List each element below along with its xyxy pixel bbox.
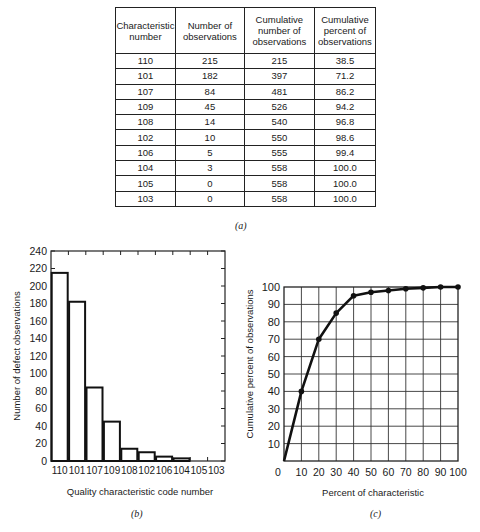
data-point-marker <box>316 336 322 342</box>
x-tick-label: 104 <box>173 465 190 476</box>
table-cell: 102 <box>116 130 176 145</box>
y-tick-label: 90 <box>268 298 280 310</box>
x-axis-title: Percent of characteristic <box>322 487 424 498</box>
y-tick-label: 20 <box>35 437 47 449</box>
x-tick-label: 30 <box>330 466 342 478</box>
bar-chart-caption: (b) <box>131 508 143 519</box>
table-row: 106555599.4 <box>116 145 376 160</box>
table-row: 1081454096.8 <box>116 115 376 130</box>
table-cell: 540 <box>244 115 314 130</box>
x-tick-label: 100 <box>449 466 467 478</box>
y-tick-label: 50 <box>268 368 280 380</box>
x-tick-label: 110 <box>52 465 68 476</box>
x-tick-label: 102 <box>138 465 155 476</box>
x-tick-label: 108 <box>121 465 138 476</box>
table-cell: 106 <box>116 145 176 160</box>
header-line: Number of <box>188 20 232 31</box>
bar <box>104 422 120 461</box>
header-line: number of <box>258 25 301 36</box>
header-line: observations <box>318 36 372 47</box>
y-tick-label: 100 <box>262 281 280 293</box>
x-tick-label: 60 <box>383 466 395 478</box>
x-tick-label: 0 <box>275 466 281 478</box>
y-tick-label: 40 <box>35 420 47 432</box>
data-point-marker <box>333 310 339 316</box>
x-tick-label: 10 <box>296 466 308 478</box>
header-line: number <box>129 31 161 42</box>
header-cumulative-number: Cumulativenumber ofobservations <box>244 8 314 54</box>
table-cell: 555 <box>244 145 314 160</box>
y-tick-label: 120 <box>29 350 47 362</box>
table-cell: 38.5 <box>314 54 375 69</box>
table-cell: 550 <box>244 130 314 145</box>
y-tick-label: 80 <box>35 385 47 397</box>
y-tick-label: 20 <box>268 420 280 432</box>
table-cell: 481 <box>244 84 314 99</box>
y-tick-label: 180 <box>29 297 47 309</box>
x-tick-label: 101 <box>69 465 86 476</box>
table-cell: 104 <box>116 161 176 176</box>
table-caption: (a) <box>235 220 247 231</box>
table-cell: 98.6 <box>314 130 375 145</box>
y-axis-title: Number of defect observations <box>11 291 22 421</box>
data-point-marker <box>420 285 426 291</box>
x-tick-label: 107 <box>86 465 103 476</box>
y-tick-label: 30 <box>268 403 280 415</box>
y-tick-label: 200 <box>29 280 47 292</box>
table-row: 1021055098.6 <box>116 130 376 145</box>
header-line: Characteristic <box>116 20 174 31</box>
x-tick-label: 40 <box>348 466 360 478</box>
x-tick-label: 90 <box>435 466 447 478</box>
table-cell: 94.2 <box>314 99 375 114</box>
table-cell: 99.4 <box>314 145 375 160</box>
bar <box>139 452 155 461</box>
x-tick-label: 109 <box>104 465 121 476</box>
x-tick-label: 50 <box>365 466 377 478</box>
table-cell: 110 <box>116 54 176 69</box>
y-tick-label: 220 <box>29 262 47 274</box>
table-cell: 0 <box>175 191 244 206</box>
table-cell: 86.2 <box>314 84 375 99</box>
x-tick-label: 20 <box>313 466 325 478</box>
table-cell: 558 <box>244 161 314 176</box>
data-point-marker <box>351 293 357 299</box>
x-tick-label: 105 <box>191 465 208 476</box>
y-tick-label: 100 <box>29 367 47 379</box>
table-cell: 100.0 <box>314 161 375 176</box>
table-cell: 558 <box>244 191 314 206</box>
x-tick-label: 70 <box>400 466 412 478</box>
table-cell: 84 <box>175 84 244 99</box>
data-point-marker <box>368 289 374 295</box>
table-cell: 3 <box>175 161 244 176</box>
header-line: percent of <box>324 25 366 36</box>
table-row: 11021521538.5 <box>116 54 376 69</box>
header-cumulative-percent: Cumulativepercent ofobservations <box>314 8 375 54</box>
table-cell: 100.0 <box>314 191 375 206</box>
table-cell: 215 <box>244 54 314 69</box>
table-cell: 96.8 <box>314 115 375 130</box>
x-tick-label: 106 <box>156 465 173 476</box>
table-row: 1078448186.2 <box>116 84 376 99</box>
bar <box>52 273 68 461</box>
bar-chart: 0204060801001201401601802002202401101011… <box>0 240 240 532</box>
line-chart-caption: (c) <box>370 508 381 519</box>
table-cell: 109 <box>116 99 176 114</box>
x-axis-title: Quality characteristic code number <box>67 486 213 497</box>
data-point-marker <box>455 284 461 290</box>
table-cell: 101 <box>116 69 176 84</box>
y-tick-label: 80 <box>268 316 280 328</box>
header-line: Cumulative <box>256 14 304 25</box>
table-cell: 108 <box>116 115 176 130</box>
table-cell: 45 <box>175 99 244 114</box>
y-tick-label: 60 <box>35 402 47 414</box>
header-line: observations <box>252 36 306 47</box>
table-cell: 397 <box>244 69 314 84</box>
y-tick-label: 40 <box>268 385 280 397</box>
table-cell: 103 <box>116 191 176 206</box>
table-cell: 215 <box>175 54 244 69</box>
bar <box>174 458 190 461</box>
table-cell: 10 <box>175 130 244 145</box>
table-cell: 105 <box>116 176 176 191</box>
table-row: 1050558100.0 <box>116 176 376 191</box>
x-tick-label: 103 <box>208 465 225 476</box>
